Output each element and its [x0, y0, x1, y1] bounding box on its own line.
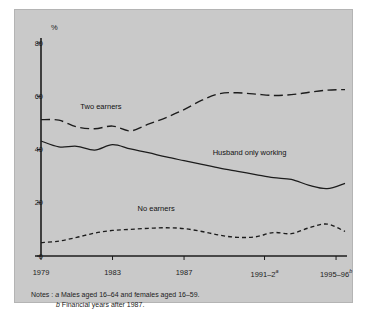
series-label-two-earners: Two earners — [80, 102, 121, 111]
note-text-b: Financial years after 1987. — [62, 301, 145, 308]
notes-prefix: Notes : — [31, 291, 53, 298]
x-tick-label: 1991–2a — [251, 268, 279, 279]
series-line-no-earners — [41, 224, 345, 243]
series-line-husband-only-working — [41, 141, 345, 189]
series-label-husband-only-working: Husband only working — [213, 148, 287, 157]
x-tick-footnote-marker: a — [276, 268, 279, 274]
x-tick-label: 1979 — [33, 268, 50, 277]
note-line-1: Notes : a Males aged 16–64 and females a… — [31, 290, 351, 300]
x-tick-label: 1987 — [176, 268, 193, 277]
x-axis-tick-labels: 1979198319871991–2a1995–96b — [15, 268, 354, 282]
x-tick-label: 1983 — [104, 268, 121, 277]
chart-plot-area — [15, 10, 354, 304]
chart-series-lines — [41, 90, 345, 243]
x-tick-footnote-marker: b — [349, 268, 352, 274]
chart-notes: Notes : a Males aged 16–64 and females a… — [31, 290, 351, 309]
x-tick-label: 1995–96b — [320, 268, 352, 279]
note-marker-b: b — [56, 301, 60, 308]
note-line-2: b Financial years after 1987. — [31, 300, 351, 310]
chart-figure: % 020406080 1979198319871991–2a1995–96b … — [14, 9, 353, 303]
chart-axes — [35, 38, 347, 260]
note-text-a: Males aged 16–64 and females aged 16–59. — [61, 291, 200, 298]
series-label-no-earners: No earners — [138, 204, 175, 213]
note-marker-a: a — [55, 291, 59, 298]
